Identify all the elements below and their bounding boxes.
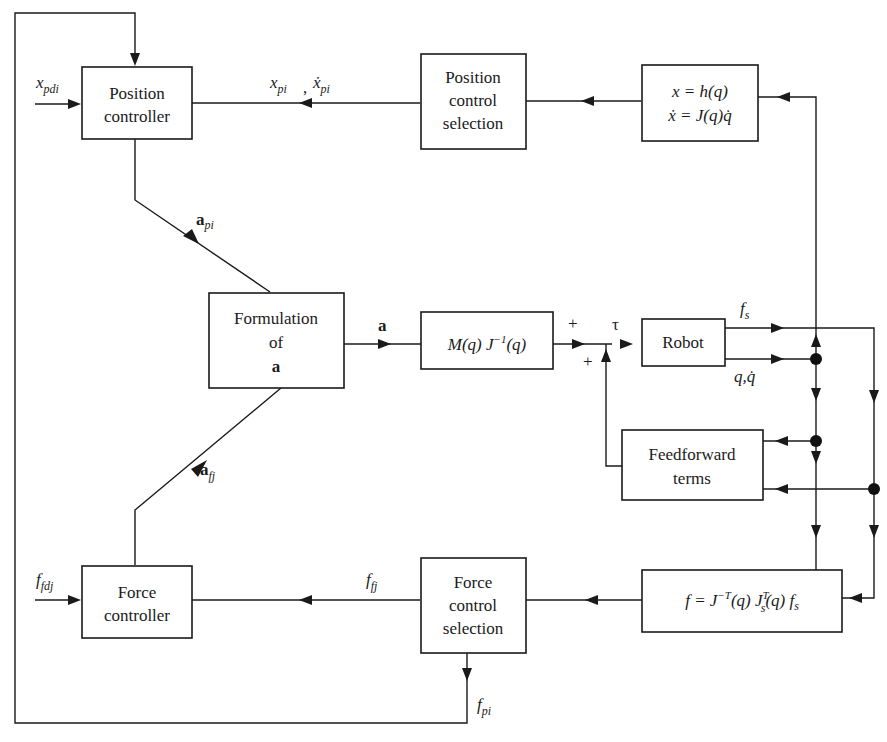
arrow-fs-into-transform — [849, 593, 862, 603]
arrow-ffdj — [68, 595, 81, 605]
label-x-pdi: xpdi — [35, 73, 59, 96]
arrow-kinematics-out — [581, 96, 594, 106]
block-mass-jacobian: M(q) J−1(q) — [421, 312, 553, 369]
arrow-xpdi — [68, 99, 81, 109]
formulation-line2: of — [269, 333, 284, 352]
arrow-feedforward-in-1 — [775, 436, 788, 446]
formulation-line3: a — [272, 357, 281, 376]
arrow-bus-down-2 — [811, 451, 821, 464]
position-controller-line1: Position — [109, 84, 165, 103]
force-selection-line3: selection — [443, 619, 504, 638]
kinematics-velocity: ẋ = J(q)q̇ — [667, 106, 732, 125]
arrow-bus-up — [811, 334, 821, 347]
arrow-xpi — [299, 98, 312, 108]
robot-label: Robot — [662, 333, 704, 352]
arrow-fs-right-down-2 — [869, 525, 879, 538]
label-plus-bottom: + — [583, 352, 593, 371]
block-force-control-selection: Force control selection — [421, 558, 526, 653]
position-controller-line2: controller — [104, 107, 170, 126]
label-a-fj: afj — [200, 460, 216, 483]
label-q-qdot: q,q̇ — [734, 367, 756, 386]
block-force-transform: f = J−T(q) JTs(q) fs — [642, 570, 842, 632]
block-kinematics: x = h(q) ẋ = J(q)q̇ — [642, 65, 758, 141]
label-a: a — [378, 316, 387, 335]
position-selection-line1: Position — [445, 68, 501, 87]
arrow-ffj — [299, 595, 312, 605]
block-force-controller: Force controller — [82, 566, 192, 638]
wire-state-to-kinematics — [758, 97, 816, 328]
kinematics-position: x = h(q) — [671, 82, 728, 101]
label-f-fdj: ffdj — [36, 570, 54, 593]
arrow-api — [183, 229, 199, 244]
arrow-tau — [620, 339, 633, 349]
position-selection-line3: selection — [443, 114, 504, 133]
arrow-fs — [771, 323, 784, 333]
arrow-feedforward-in-2 — [775, 484, 788, 494]
arrow-fpi — [462, 668, 472, 681]
arrow-feedforward-up — [601, 349, 611, 362]
force-controller-line1: Force — [118, 583, 157, 602]
label-xdot-pi: ẋpi — [312, 73, 330, 96]
feedforward-line2: terms — [673, 469, 711, 488]
arrow-transform-out — [585, 595, 598, 605]
formulation-line1: Formulation — [234, 309, 319, 328]
block-feedforward-terms: Feedforward terms — [622, 430, 763, 500]
arrow-fs-right-down-1 — [869, 390, 879, 403]
force-controller-line2: controller — [104, 606, 170, 625]
arrow-bus-down-3 — [811, 525, 821, 538]
junctions — [810, 353, 880, 495]
wire-feedforward-to-sum — [606, 344, 622, 466]
arrow-bus-down-1 — [811, 388, 821, 401]
label-f-s: fs — [740, 299, 750, 322]
arrow-sum-plus — [572, 339, 585, 349]
feedforward-line1: Feedforward — [649, 445, 736, 464]
label-comma: , — [303, 78, 307, 97]
junction-q-qdot — [810, 353, 822, 365]
arrow-a — [378, 339, 391, 349]
label-x-pi: xpi — [269, 73, 287, 96]
block-position-control-selection: Position control selection — [421, 54, 526, 149]
label-f-pi: fpi — [477, 695, 491, 718]
force-selection-line2: control — [449, 596, 497, 615]
label-plus-top: + — [568, 314, 578, 333]
arrow-loop-into-position-controller — [130, 53, 140, 66]
arrow-kinematics-in — [777, 92, 790, 102]
block-robot: Robot — [642, 319, 725, 366]
control-diagram: Position controller Position control sel… — [0, 0, 887, 742]
block-position-controller: Position controller — [82, 67, 192, 139]
force-selection-line1: Force — [454, 573, 493, 592]
position-selection-line2: control — [449, 91, 497, 110]
junction-feedforward-state — [810, 435, 822, 447]
label-tau: τ — [612, 315, 619, 334]
mass-jacobian-expr: M(q) J−1(q) — [447, 333, 527, 354]
block-formulation-of-a: Formulation of a — [209, 293, 344, 388]
arrow-q-qdot — [771, 354, 784, 364]
junction-feedforward-fs — [868, 483, 880, 495]
label-f-fj: ffj — [366, 570, 378, 593]
label-a-pi: api — [196, 210, 214, 232]
